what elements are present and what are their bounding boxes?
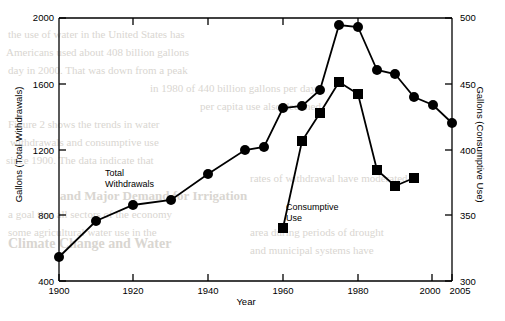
x-tick-label: 1940 (188, 285, 228, 296)
chart-svg (0, 0, 505, 321)
series-annotation-total-withdrawals: Total Withdrawals (105, 168, 154, 190)
series-annotation-line: Withdrawals (105, 179, 154, 190)
x-axis-ticks (59, 18, 452, 281)
y-axis-left-ticks (59, 18, 66, 281)
y-axis-label-right: Gallons (Consumptive Use) (475, 70, 486, 220)
series-total-withdrawals (54, 20, 457, 262)
y-axis-label-left: Gallons (Total Withdrawals) (13, 70, 24, 220)
axis-frame (59, 18, 452, 281)
y-tick-label-left: 1200 (20, 145, 54, 156)
chart-figure: the use of water in the United States ha… (0, 0, 505, 321)
series-annotation-line: Consumptive (286, 202, 339, 213)
y-axis-right-ticks (445, 18, 452, 281)
x-tick-label: 1980 (338, 285, 378, 296)
x-axis-label: Year (196, 296, 296, 307)
series-annotation-line: Use (286, 213, 339, 224)
x-tick-label: 1960 (263, 285, 303, 296)
x-tick-label: 2005 (440, 285, 480, 296)
y-tick-label-right: 500 (460, 12, 494, 23)
x-tick-label: 1920 (113, 285, 153, 296)
series-annotation-consumptive-use: Consumptive Use (286, 202, 339, 224)
y-tick-label-left: 1600 (20, 79, 54, 90)
y-tick-label-left: 800 (20, 210, 54, 221)
series-annotation-line: Total (105, 168, 154, 179)
chart-plot-area: 400 800 1200 1600 2000 300 350 400 450 5… (0, 0, 505, 321)
y-tick-label-left: 2000 (20, 12, 54, 23)
x-tick-label: 1900 (39, 285, 79, 296)
